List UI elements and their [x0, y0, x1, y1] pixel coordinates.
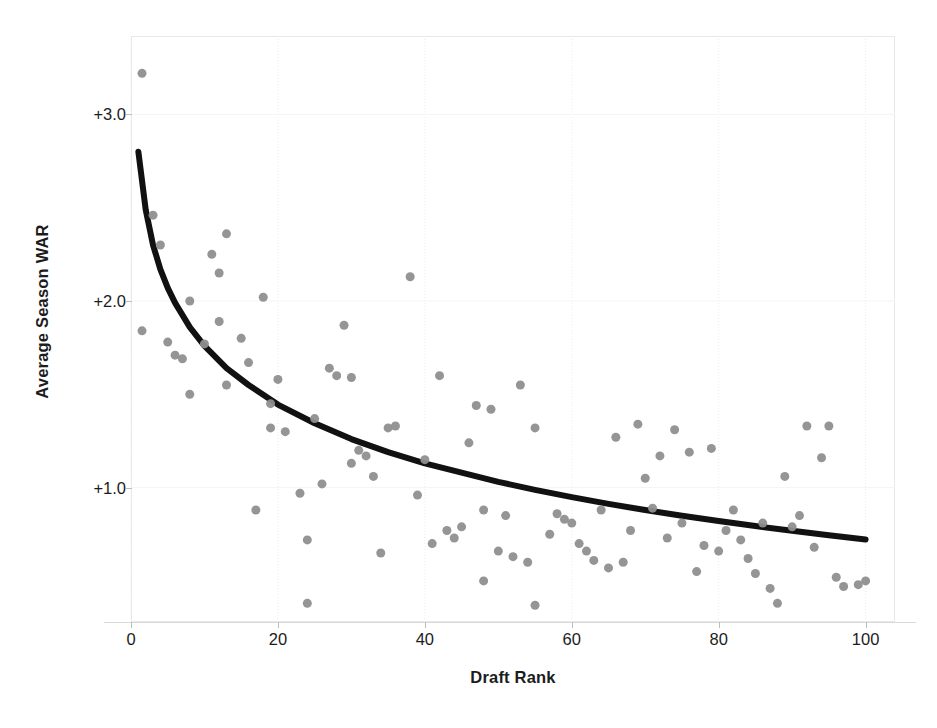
x-tick-label: 100: [852, 630, 880, 649]
x-tick-label: 0: [126, 630, 135, 649]
x-tick-mark: [131, 622, 132, 628]
x-tick-mark: [866, 622, 867, 628]
x-tick-label: 60: [563, 630, 581, 649]
y-tick-mark: [126, 301, 132, 302]
y-axis-title: Average Season WAR: [22, 0, 62, 622]
y-tick-label: +1.0: [70, 478, 126, 497]
y-tick-label: +3.0: [70, 105, 126, 124]
scatter-chart: Average Season WAR +1.0+2.0+3.0 02040608…: [0, 0, 937, 728]
x-tick-mark: [278, 622, 279, 628]
y-tick-mark: [126, 114, 132, 115]
plot-canvas: [131, 36, 895, 622]
gridlines: [131, 36, 895, 622]
trendline: [138, 152, 865, 540]
x-tick-label: 80: [710, 630, 728, 649]
y-axis-tick-labels: +1.0+2.0+3.0: [62, 0, 126, 728]
y-tick-label: +2.0: [70, 292, 126, 311]
y-axis-title-label: Average Season WAR: [33, 224, 52, 398]
x-tick-mark: [719, 622, 720, 628]
x-tick-label: 40: [416, 630, 434, 649]
y-tick-mark: [126, 488, 132, 489]
x-tick-label: 20: [269, 630, 287, 649]
x-tick-mark: [572, 622, 573, 628]
x-axis-title: Draft Rank: [131, 668, 895, 687]
x-tick-mark: [425, 622, 426, 628]
x-axis-baseline: [104, 622, 916, 623]
